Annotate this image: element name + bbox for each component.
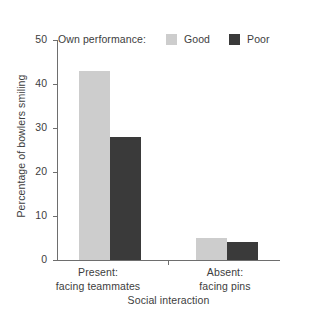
x-category-label-absent: Absent: facing pins: [170, 266, 280, 293]
x-category-label-present-line1: Present:: [38, 266, 158, 280]
y-tick-0: 0: [53, 260, 57, 261]
y-tick-label-40: 40: [35, 77, 47, 89]
x-category-label-present: Present: facing teammates: [38, 266, 158, 293]
y-tick-50: 50: [53, 40, 57, 41]
bar-chart-figure: Own performance: Good Poor Percentage of…: [0, 0, 316, 324]
y-axis-title: Percentage of bowlers smiling: [14, 36, 28, 256]
bar-absent-good: [196, 238, 227, 260]
x-category-label-absent-line2: facing pins: [170, 280, 280, 294]
bar-absent-poor: [227, 242, 258, 260]
plot-area: 50 40 30 20 10 0: [57, 40, 280, 260]
y-axis-line: [57, 40, 58, 261]
y-tick-label-50: 50: [35, 33, 47, 45]
x-tick-group-separator: [168, 261, 169, 265]
y-tick-40: 40: [53, 84, 57, 85]
bar-present-good: [79, 71, 110, 260]
x-axis-title: Social interaction: [57, 294, 280, 306]
y-tick-label-0: 0: [41, 253, 47, 265]
y-tick-label-30: 30: [35, 121, 47, 133]
y-axis-title-wrapper: Percentage of bowlers smiling: [14, 36, 28, 256]
y-tick-30: 30: [53, 128, 57, 129]
bar-present-poor: [110, 137, 141, 260]
x-category-label-present-line2: facing teammates: [38, 280, 158, 294]
y-tick-label-10: 10: [35, 209, 47, 221]
y-tick-10: 10: [53, 216, 57, 217]
x-category-label-absent-line1: Absent:: [170, 266, 280, 280]
y-tick-20: 20: [53, 172, 57, 173]
y-tick-label-20: 20: [35, 165, 47, 177]
